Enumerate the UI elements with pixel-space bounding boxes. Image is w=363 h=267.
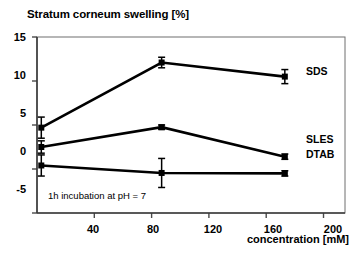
chart-figure: Stratum corneum swelling [%] 15 10 5 0 -… — [0, 0, 363, 267]
plot-frame — [37, 37, 345, 213]
data-point-sds — [38, 125, 44, 131]
data-point-dtab — [159, 170, 165, 176]
data-point-sds — [159, 60, 165, 66]
data-point-dtab — [38, 162, 44, 168]
plot-area — [0, 0, 363, 267]
data-point-sles — [282, 154, 288, 160]
data-point-sles — [38, 144, 44, 150]
series-line-sles — [41, 127, 285, 156]
data-point-sles — [159, 124, 165, 130]
series-line-sds — [41, 63, 285, 128]
data-point-sds — [282, 74, 288, 80]
data-point-dtab — [282, 170, 288, 176]
